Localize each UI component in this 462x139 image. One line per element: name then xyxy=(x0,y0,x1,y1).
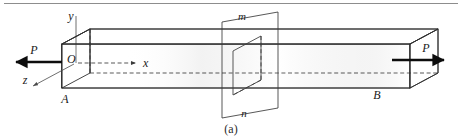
label-axis-x: x xyxy=(142,56,149,70)
label-section-n: n xyxy=(241,107,247,119)
label-force-left: P xyxy=(29,43,38,57)
label-origin: O xyxy=(67,52,76,66)
label-axis-z: z xyxy=(22,73,28,87)
label-section-m: m xyxy=(238,10,246,22)
prismatic-bar-diagram: y x z O P P A B m n (a) xyxy=(0,0,462,139)
figure-container: y x z O P P A B m n (a) xyxy=(0,0,462,139)
figure-caption: (a) xyxy=(224,122,237,136)
label-end-a: A xyxy=(60,92,69,106)
bar-front-face-sheen xyxy=(62,44,410,88)
label-axis-y: y xyxy=(67,9,74,23)
label-force-right: P xyxy=(421,41,430,55)
label-end-b: B xyxy=(373,88,381,102)
